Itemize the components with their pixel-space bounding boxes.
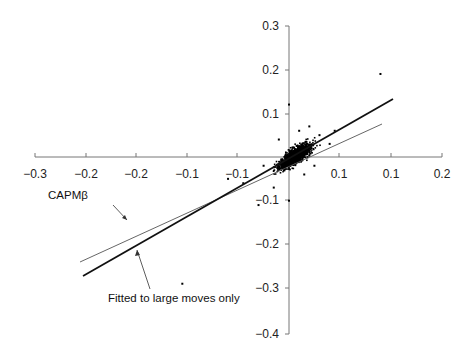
scatter-chart: −0.3−0.2−0.2−0.1−0.10.10.10.2 0.30.20.1−…	[0, 0, 471, 357]
y-tick-label: −0.3	[255, 281, 279, 295]
outlier-point	[227, 178, 229, 180]
y-tick-label: −0.4	[255, 327, 279, 341]
capm-beta-line	[80, 124, 382, 262]
outlier-point	[273, 187, 275, 189]
outlier-point	[181, 283, 183, 285]
annotation-fitted-arrow	[137, 250, 150, 289]
outlier-point	[298, 130, 300, 132]
y-tick-label: 0.1	[262, 107, 279, 121]
outlier-point	[308, 125, 310, 127]
fitted-large-moves-line	[83, 99, 393, 276]
outlier-point	[263, 165, 265, 167]
outlier-point	[303, 173, 305, 175]
outlier-point	[278, 139, 280, 141]
outlier-point	[288, 200, 290, 202]
outlier-point	[313, 165, 315, 167]
regression-lines	[80, 99, 393, 276]
y-tick-label: 0.3	[262, 19, 279, 33]
x-tick-label: 0.2	[434, 167, 451, 181]
x-tick-label: 0.1	[383, 167, 400, 181]
outlier-point	[379, 73, 381, 75]
outlier-point	[329, 143, 331, 145]
y-tick-label: 0.2	[262, 63, 279, 77]
x-tick-label: −0.1	[175, 167, 199, 181]
outlier-point	[318, 134, 320, 136]
arrowhead-icon	[135, 250, 140, 256]
scatter-points	[181, 73, 381, 285]
x-tick-label: −0.3	[23, 167, 47, 181]
annotation-capm: CAPMβ	[48, 189, 127, 220]
x-tick-label: 0.1	[331, 167, 348, 181]
annotation-capm-label: CAPMβ	[48, 189, 88, 201]
y-tick-label: −0.2	[255, 237, 279, 251]
annotation-fitted-label: Fitted to large moves only	[108, 292, 240, 304]
annotation-fitted: Fitted to large moves only	[108, 250, 240, 304]
x-tick-label: −0.2	[124, 167, 148, 181]
outlier-point	[288, 104, 290, 106]
x-tick-label: −0.2	[74, 167, 98, 181]
outlier-point	[258, 204, 260, 206]
